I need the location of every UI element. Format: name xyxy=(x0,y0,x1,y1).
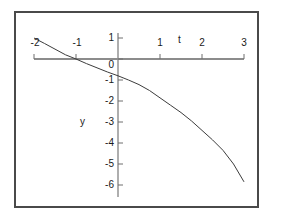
plot-area: -2 -1 1 2 3 t 1 0 -1 -2 -3 -4 -5 -6 y xyxy=(0,0,287,224)
y-axis-label: y xyxy=(80,117,85,127)
y-tick-label--2: -2 xyxy=(94,96,114,106)
x-tick-label-1: 1 xyxy=(153,38,167,48)
y-tick-label--4: -4 xyxy=(94,138,114,148)
y-tick-label-1: 1 xyxy=(96,33,114,43)
figure-canvas: -2 -1 1 2 3 t 1 0 -1 -2 -3 -4 -5 -6 y xyxy=(0,0,287,224)
x-tick-label-3: 3 xyxy=(237,38,251,48)
y-axis-ticks xyxy=(118,38,123,185)
y-tick-label--3: -3 xyxy=(94,117,114,127)
y-tick-label-0: 0 xyxy=(96,60,114,70)
x-axis-label: t xyxy=(178,35,181,45)
x-tick-label--2: -2 xyxy=(27,38,43,48)
y-tick-label--6: -6 xyxy=(94,180,114,190)
y-tick-label--1: -1 xyxy=(94,75,114,85)
x-tick-label-2: 2 xyxy=(195,38,209,48)
x-tick-label--1: -1 xyxy=(69,38,85,48)
chart-svg xyxy=(0,0,287,224)
y-tick-label--5: -5 xyxy=(94,159,114,169)
